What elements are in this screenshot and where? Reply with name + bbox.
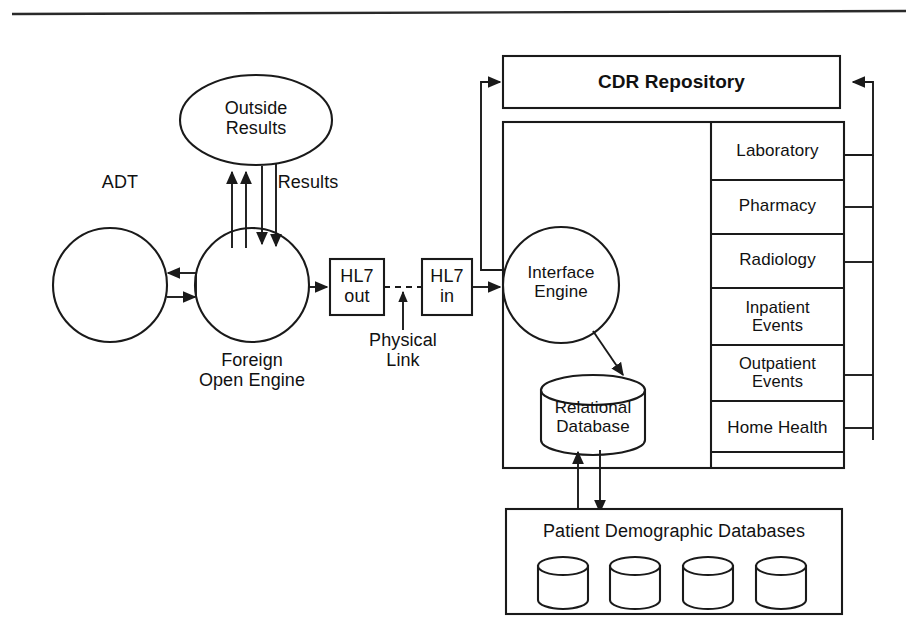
cdr-repository-title: CDR Repository — [503, 71, 840, 92]
physical-link-dashed — [384, 287, 421, 330]
departments-rail-to-cdr — [844, 82, 873, 440]
hl7-out-label: HL7 out — [330, 266, 384, 306]
foreign-open-engine-label: Foreign Open Engine — [152, 350, 352, 390]
demographic-cylinder — [756, 557, 806, 609]
department-label-outpatient-events: Outpatient Events — [711, 354, 844, 391]
top-rule — [12, 11, 906, 14]
department-label-pharmacy: Pharmacy — [711, 196, 844, 215]
outside-results-label: Outside Results — [196, 98, 316, 138]
architecture-diagram: Outside Results ADT Results Foreign Open… — [0, 0, 918, 630]
interface-engine-label: Interface Engine — [505, 263, 617, 301]
interface-to-cdr-loop — [481, 82, 503, 270]
physical-link-label: Physical Link — [343, 330, 463, 370]
patient-demographic-databases-label: Patient Demographic Databases — [506, 521, 842, 541]
demographic-cylinder — [683, 557, 733, 609]
department-label-inpatient-events: Inpatient Events — [711, 298, 844, 335]
relational-database-label: Relational Database — [537, 398, 649, 436]
hl7-in-label: HL7 in — [422, 266, 472, 306]
department-label-home-health: Home Health — [711, 418, 844, 437]
department-label-radiology: Radiology — [711, 250, 844, 269]
demographic-cylinder — [610, 557, 660, 609]
adt-exchange-arrows — [167, 273, 196, 297]
results-label: Results — [266, 172, 350, 192]
source-circle — [53, 228, 167, 342]
foreign-open-engine-circle — [195, 228, 309, 342]
demographic-cylinder — [538, 557, 588, 609]
adt-label: ADT — [75, 172, 165, 192]
department-label-laboratory: Laboratory — [711, 141, 844, 160]
